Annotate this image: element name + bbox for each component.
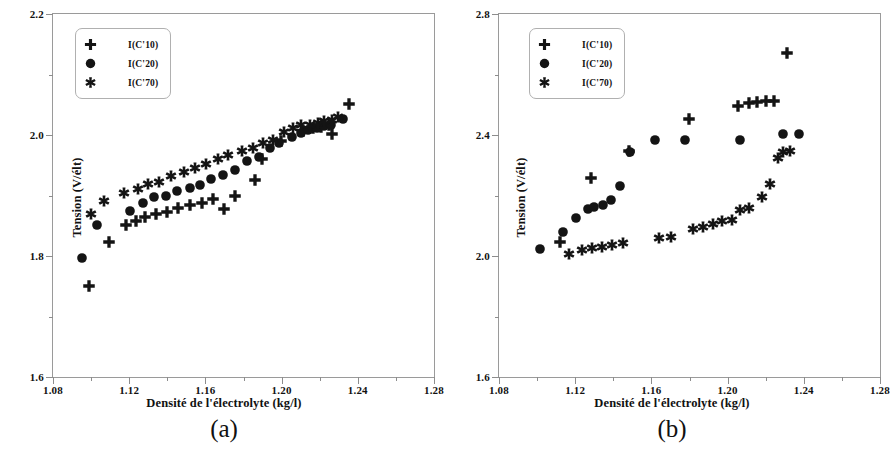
y-axis-tick: [46, 256, 53, 257]
y-axis-tick-label: 1.6: [476, 371, 490, 383]
x-axis-tick-label: 1.24: [794, 384, 814, 396]
x-axis-title-b: Densité de l'électrolyte (kg/l): [448, 396, 896, 411]
x-axis-tick-label: 1.28: [424, 384, 444, 396]
circle-marker: [649, 134, 662, 147]
y-axis-title-b: Tension (V/élt): [514, 118, 529, 278]
circle-marker: [624, 146, 637, 159]
legend-item-c70: I(C'70): [538, 73, 612, 92]
plus-marker: [228, 190, 241, 203]
panel-caption-a: (a): [0, 415, 448, 443]
x-axis-tick-label: 1.20: [718, 384, 738, 396]
plot-frame-a: Tension (V/élt) I(C'10): [52, 13, 435, 378]
x-axis-minor-tick: [244, 377, 245, 381]
legend-item-c70: I(C'70): [84, 73, 158, 92]
plus-marker-icon: [538, 38, 568, 51]
x-axis-tick-label: 1.16: [641, 384, 661, 396]
plus-marker: [171, 202, 184, 215]
circle-marker: [124, 204, 137, 217]
x-axis-tick: [53, 377, 54, 384]
plus-marker: [682, 113, 695, 126]
x-axis-tick-label: 1.12: [565, 384, 585, 396]
circle-marker: [556, 226, 569, 239]
circle-marker: [170, 185, 183, 198]
star-marker: [784, 145, 797, 158]
x-axis-minor-tick: [320, 377, 321, 381]
x-axis-tick-label: 1.12: [119, 384, 139, 396]
x-axis-tick: [651, 377, 652, 384]
star-marker: [764, 177, 777, 190]
circle-marker: [147, 191, 160, 204]
legend-item-c20: I(C'20): [84, 54, 158, 73]
x-axis-minor-tick: [167, 377, 168, 381]
y-axis-tick: [492, 135, 499, 136]
x-axis-tick-label: 1.24: [348, 384, 368, 396]
circle-marker: [776, 127, 789, 140]
legend-item-c20: I(C'20): [538, 54, 612, 73]
panel-b: Tension (V/élt) I(C'10): [448, 0, 896, 460]
circle-marker: [216, 169, 229, 182]
plus-marker: [103, 236, 116, 249]
y-axis-minor-tick: [49, 317, 53, 318]
x-axis-title-a: Densité de l'électrolyte (kg/l): [0, 396, 448, 411]
y-axis-tick-label: 2.0: [476, 250, 490, 262]
legend-label-c10: I(C'10): [568, 40, 612, 50]
circle-marker: [605, 194, 618, 207]
y-axis-minor-tick: [49, 75, 53, 76]
circle-marker-icon: [84, 57, 114, 70]
circle-marker: [733, 133, 746, 146]
x-axis-tick-label: 1.20: [272, 384, 292, 396]
legend-b: I(C'10) I(C'20) I(: [529, 28, 625, 99]
star-marker: [85, 207, 98, 220]
legend-label-c70: I(C'70): [114, 78, 158, 88]
star-marker: [98, 194, 111, 207]
y-axis-tick: [492, 14, 499, 15]
plus-marker: [248, 174, 261, 187]
x-axis-minor-tick: [396, 377, 397, 381]
y-axis-tick-label: 2.4: [476, 129, 490, 141]
star-marker-icon: [84, 76, 114, 89]
x-axis-tick-label: 1.28: [870, 384, 890, 396]
circle-marker-icon: [538, 57, 568, 70]
y-axis-tick: [46, 135, 53, 136]
x-axis-tick: [728, 377, 729, 384]
y-axis-minor-tick: [49, 196, 53, 197]
plus-marker: [83, 279, 96, 292]
y-axis-tick-label: 1.6: [30, 371, 44, 383]
star-marker: [222, 149, 235, 162]
star-marker-icon: [538, 76, 568, 89]
y-axis-minor-tick: [495, 75, 499, 76]
panel-caption-b: (b): [448, 415, 896, 443]
star-marker: [563, 247, 576, 260]
x-axis-tick: [282, 377, 283, 384]
plus-marker: [343, 98, 356, 111]
y-axis-minor-tick: [495, 196, 499, 197]
circle-marker: [678, 134, 691, 147]
star-marker: [653, 232, 666, 245]
y-axis-tick: [492, 377, 499, 378]
legend-a: I(C'10) I(C'20) I(: [75, 28, 171, 99]
legend-label-c70: I(C'70): [568, 78, 612, 88]
star-marker: [165, 170, 178, 183]
star-marker: [665, 230, 678, 243]
legend-label-c10: I(C'10): [114, 40, 158, 50]
legend-label-c20: I(C'20): [568, 59, 612, 69]
y-axis-tick: [46, 377, 53, 378]
y-axis-tick-label: 2.0: [30, 129, 44, 141]
star-marker: [742, 201, 755, 214]
legend-item-c10: I(C'10): [538, 35, 612, 54]
y-axis-tick-label: 1.8: [30, 250, 44, 262]
star-marker: [755, 191, 768, 204]
y-axis-minor-tick: [495, 317, 499, 318]
panel-a: Tension (V/élt) I(C'10): [0, 0, 448, 460]
plus-marker: [218, 202, 231, 215]
x-axis-tick: [880, 377, 881, 384]
y-axis-tick: [46, 14, 53, 15]
x-axis-minor-tick: [91, 377, 92, 381]
x-axis-tick-label: 1.16: [195, 384, 215, 396]
y-axis-tick-label: 2.8: [476, 8, 490, 20]
plus-marker: [780, 47, 793, 60]
star-marker: [152, 175, 165, 188]
circle-marker: [228, 164, 241, 177]
plus-marker-icon: [84, 38, 114, 51]
circle-marker: [793, 128, 806, 141]
